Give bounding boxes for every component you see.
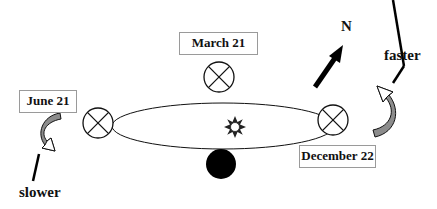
north-label: N	[341, 18, 352, 35]
earth-dark-icon	[206, 149, 236, 179]
earth-june-icon	[83, 108, 113, 138]
slower-label: slower	[19, 184, 61, 201]
sun-icon	[224, 116, 246, 138]
faster-pointer-line	[393, 66, 404, 83]
december-22-label: December 22	[299, 145, 376, 168]
june-21-label: June 21	[19, 90, 77, 113]
march-21-label: March 21	[179, 32, 258, 55]
slower-curved-arrow-icon	[41, 113, 61, 151]
faster-curved-arrow-icon	[373, 86, 396, 137]
north-arrow-icon	[315, 45, 343, 87]
slower-pointer-line	[33, 154, 39, 181]
earth-december-icon	[318, 105, 348, 135]
earth-march-icon	[204, 62, 234, 92]
orbit-ellipse	[112, 103, 334, 149]
faster-label: faster	[384, 47, 421, 64]
